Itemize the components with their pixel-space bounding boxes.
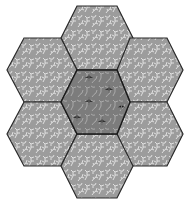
petal-hexagon-bottom	[61, 134, 133, 198]
hexagon-rosette	[0, 0, 191, 209]
petal-hexagon-upper-right	[117, 38, 183, 102]
